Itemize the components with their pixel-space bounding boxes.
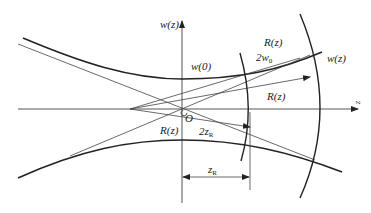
gaussian-beam-diagram: w(z) z w(0) O R(z) R(z) R(z) 2w0 w(z) 2z… (0, 0, 371, 213)
R-label-upper: R(z) (264, 37, 282, 48)
w-axis-label: w(z) (160, 19, 179, 30)
w0-label: w(0) (191, 61, 211, 72)
z-axis-label: z (353, 101, 362, 105)
R-label-lower: R(z) (160, 125, 178, 136)
two-zR-label: 2zR (199, 126, 213, 139)
origin-label: O (185, 113, 193, 124)
wavefront-outer (300, 14, 320, 198)
zR-label: zR (208, 164, 217, 177)
beam-envelope-lower (18, 140, 342, 178)
R-label-mid: R(z) (267, 91, 285, 102)
wz-right-label: w(z) (327, 53, 346, 64)
two-w0-label: 2w0 (256, 52, 272, 65)
diagram-svg (0, 0, 371, 213)
